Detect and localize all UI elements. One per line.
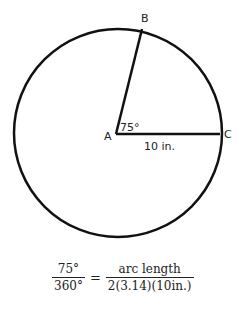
right-numerator: arc length: [117, 262, 183, 277]
right-denominator: 2(3.14)(10in.): [106, 277, 194, 293]
equals-sign: =: [90, 270, 101, 285]
left-denominator: 360°: [52, 277, 85, 293]
point-c-label: C: [224, 128, 232, 141]
point-a-label: A: [104, 130, 112, 143]
arc-length-equation: 75° 360° = arc length 2(3.14)(10in.): [52, 262, 194, 293]
circle-diagram: B A C 75° 10 in.: [0, 0, 245, 250]
left-fraction: 75° 360°: [52, 262, 85, 293]
right-fraction: arc length 2(3.14)(10in.): [106, 262, 194, 293]
radius-label: 10 in.: [144, 140, 175, 153]
radius-ab: [116, 29, 142, 134]
point-b-label: B: [141, 12, 149, 25]
angle-label: 75°: [120, 121, 140, 134]
left-numerator: 75°: [56, 262, 81, 277]
